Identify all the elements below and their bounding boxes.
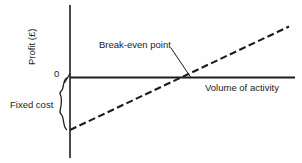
- break-even-leader-line: [171, 48, 191, 77]
- x-axis-title: Volume of activity: [205, 83, 279, 93]
- break-even-point-label: Break-even point: [99, 40, 171, 50]
- break-even-chart: Profit (£) 0 Volume of activity Break-ev…: [0, 0, 302, 163]
- fixed-cost-brace-icon: [60, 78, 67, 130]
- y-axis-title: Profit (£): [27, 29, 37, 65]
- origin-label: 0: [54, 69, 59, 79]
- fixed-cost-label: Fixed cost: [10, 100, 53, 110]
